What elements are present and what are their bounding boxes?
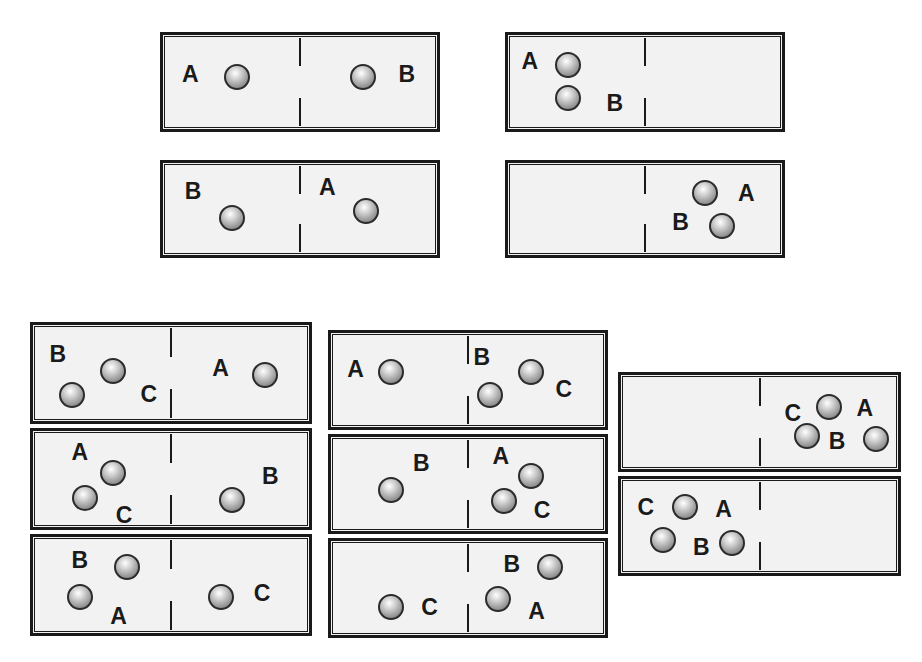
divider-tick-top xyxy=(759,482,761,510)
divider-tick-top xyxy=(299,166,301,194)
sphere-label-b: B xyxy=(262,465,279,488)
box-group: AB xyxy=(505,32,785,132)
sphere xyxy=(555,85,581,111)
sphere-label-c: C xyxy=(116,504,133,527)
sphere-label-a: A xyxy=(182,63,199,86)
container-box: BAC xyxy=(30,534,312,636)
sphere-label-a: A xyxy=(347,357,364,380)
sphere xyxy=(353,198,379,224)
divider-tick-top xyxy=(299,38,301,66)
divider-tick-bottom xyxy=(467,500,469,528)
divider-tick-bottom xyxy=(759,438,761,466)
sphere xyxy=(555,52,581,78)
sphere-label-b: B xyxy=(607,91,624,114)
container-box: CBA xyxy=(328,538,608,638)
sphere xyxy=(537,554,563,580)
sphere-label-a: A xyxy=(715,498,732,521)
container-box: CAB xyxy=(618,476,901,576)
divider-tick-top xyxy=(467,440,469,468)
divider-tick-bottom xyxy=(644,224,646,252)
sphere-label-c: C xyxy=(534,499,551,522)
sphere-label-a: A xyxy=(856,396,873,419)
divider-tick-top xyxy=(644,38,646,66)
sphere xyxy=(692,180,718,206)
sphere xyxy=(224,64,250,90)
sphere xyxy=(350,64,376,90)
container-box: CAB xyxy=(618,372,901,472)
sphere xyxy=(650,527,676,553)
box-group: ABCBACCBA xyxy=(328,330,608,638)
sphere xyxy=(794,423,820,449)
sphere xyxy=(252,362,278,388)
sphere xyxy=(863,426,889,452)
container-box: AB xyxy=(505,32,785,132)
sphere xyxy=(100,358,126,384)
box-group: BCAACBBAC xyxy=(30,322,312,636)
sphere xyxy=(59,382,85,408)
sphere-label-c: C xyxy=(254,581,271,604)
sphere xyxy=(72,485,98,511)
divider-tick-bottom xyxy=(170,495,172,524)
divider-tick-bottom xyxy=(299,224,301,252)
sphere xyxy=(719,530,745,556)
container-box: ABC xyxy=(328,330,608,430)
sphere-label-a: A xyxy=(493,444,510,467)
sphere xyxy=(378,359,404,385)
sphere xyxy=(816,394,842,420)
sphere-label-b: B xyxy=(504,552,521,575)
container-box: AB xyxy=(505,160,785,258)
sphere xyxy=(518,463,544,489)
sphere-label-c: C xyxy=(556,378,573,401)
box-group: CABCAB xyxy=(618,372,901,576)
sphere-label-b: B xyxy=(50,342,67,365)
divider-tick-bottom xyxy=(467,396,469,424)
sphere-label-c: C xyxy=(421,595,438,618)
box-group: AB xyxy=(505,160,785,258)
sphere-label-b: B xyxy=(413,452,430,475)
sphere-label-b: B xyxy=(829,429,846,452)
divider-tick-bottom xyxy=(467,604,469,632)
divider-tick-bottom xyxy=(644,98,646,126)
sphere xyxy=(114,554,140,580)
sphere xyxy=(100,460,126,486)
box-group: AB xyxy=(160,32,440,132)
divider-tick-bottom xyxy=(299,98,301,126)
divider-tick-top xyxy=(467,544,469,572)
container-box: BA xyxy=(160,160,440,258)
container-box: ACB xyxy=(30,428,312,530)
divider-tick-bottom xyxy=(759,542,761,570)
divider-tick-top xyxy=(644,166,646,194)
sphere xyxy=(67,584,93,610)
sphere xyxy=(208,584,234,610)
sphere xyxy=(219,205,245,231)
sphere xyxy=(378,594,404,620)
sphere xyxy=(219,487,245,513)
sphere xyxy=(518,359,544,385)
sphere-label-c: C xyxy=(638,496,655,519)
sphere-label-a: A xyxy=(522,50,539,73)
sphere xyxy=(485,586,511,612)
divider-tick-top xyxy=(170,434,172,463)
divider-tick-top xyxy=(170,328,172,357)
sphere-label-b: B xyxy=(473,345,490,368)
sphere-label-a: A xyxy=(319,175,336,198)
sphere-label-b: B xyxy=(399,63,416,86)
sphere-label-a: A xyxy=(528,599,545,622)
sphere-label-a: A xyxy=(110,604,127,627)
sphere-label-b: B xyxy=(672,210,689,233)
sphere-label-b: B xyxy=(693,535,710,558)
sphere-label-b: B xyxy=(72,549,89,572)
divider-tick-top xyxy=(759,378,761,406)
sphere-label-b: B xyxy=(185,179,202,202)
sphere xyxy=(491,488,517,514)
container-box: BCA xyxy=(30,322,312,424)
sphere-label-c: C xyxy=(141,383,158,406)
sphere-label-a: A xyxy=(212,357,229,380)
container-box: AB xyxy=(160,32,440,132)
sphere-label-c: C xyxy=(784,401,801,424)
sphere-label-a: A xyxy=(738,182,755,205)
box-group: BA xyxy=(160,160,440,258)
sphere xyxy=(709,213,735,239)
divider-tick-top xyxy=(170,540,172,569)
divider-tick-bottom xyxy=(170,601,172,630)
